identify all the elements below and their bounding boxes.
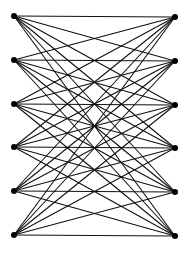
edge-L1-R1 <box>14 16 175 17</box>
node-L2 <box>11 57 17 63</box>
node-L1 <box>11 13 17 19</box>
edge-L6-R6 <box>14 235 175 236</box>
node-R1 <box>172 14 178 20</box>
node-L5 <box>11 188 17 194</box>
node-R6 <box>172 233 178 239</box>
edge-L6-R5 <box>14 192 175 235</box>
edges <box>14 16 175 236</box>
node-R2 <box>172 58 178 64</box>
node-R3 <box>172 102 178 108</box>
edge-L2-R1 <box>14 17 175 60</box>
node-R4 <box>172 145 178 151</box>
node-L6 <box>11 232 17 238</box>
node-L4 <box>11 144 17 150</box>
bipartite-graph <box>0 0 189 254</box>
node-L3 <box>11 101 17 107</box>
node-R5 <box>172 189 178 195</box>
